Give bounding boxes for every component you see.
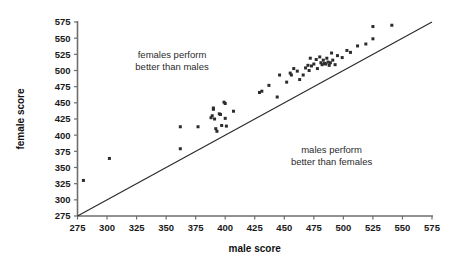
annotation-females-perform-better: females performbetter than males	[135, 49, 209, 72]
data-point	[214, 127, 217, 130]
data-point	[325, 57, 328, 60]
data-point	[356, 44, 359, 47]
data-point	[345, 49, 348, 52]
data-point	[296, 70, 299, 73]
data-point	[364, 42, 367, 45]
y-tick-label: 400	[55, 130, 71, 141]
annotation-line: females perform	[138, 49, 207, 60]
data-point	[316, 67, 319, 70]
data-point	[330, 52, 333, 55]
annotation-line: better than females	[291, 156, 373, 167]
data-point	[232, 110, 235, 113]
y-tick-label: 375	[55, 146, 72, 157]
x-tick-label: 475	[306, 222, 323, 233]
x-tick-label: 500	[335, 222, 351, 233]
x-tick-label: 525	[365, 222, 382, 233]
y-tick-label: 500	[55, 65, 71, 76]
y-tick-label: 300	[55, 194, 71, 205]
data-point	[328, 64, 331, 67]
data-point	[304, 66, 307, 69]
data-point	[308, 69, 311, 72]
data-point	[276, 96, 279, 99]
data-point	[213, 118, 216, 121]
annotation-line: better than males	[135, 61, 209, 72]
plot-canvas: 2753003253503754004254504755005255505752…	[0, 0, 455, 268]
data-point	[298, 78, 301, 81]
data-point	[290, 74, 293, 77]
data-point	[336, 54, 339, 57]
data-point	[212, 107, 215, 110]
data-point	[315, 58, 318, 61]
data-point	[211, 114, 214, 117]
y-tick-label: 550	[55, 33, 71, 44]
identity-reference-line	[78, 22, 433, 216]
data-point	[220, 124, 223, 127]
data-point	[179, 125, 182, 128]
data-point	[278, 74, 281, 77]
data-point	[349, 51, 352, 54]
x-tick-label: 450	[276, 222, 292, 233]
data-point	[371, 25, 374, 28]
y-tick-label: 325	[55, 178, 72, 189]
data-point	[197, 125, 200, 128]
annotation-line: males perform	[301, 144, 362, 155]
y-axis-title: female score	[15, 88, 26, 150]
data-point	[108, 157, 111, 160]
data-point	[82, 179, 85, 182]
data-point	[334, 63, 337, 66]
y-tick-label: 575	[55, 16, 72, 27]
data-point	[260, 90, 263, 93]
x-tick-label: 425	[247, 222, 264, 233]
data-point	[371, 37, 374, 40]
x-tick-label: 550	[395, 222, 411, 233]
data-point	[322, 59, 325, 62]
y-tick-label: 525	[55, 49, 72, 60]
data-point	[292, 67, 295, 70]
x-tick-label: 275	[70, 222, 87, 233]
x-tick-label: 350	[158, 222, 174, 233]
data-point	[390, 24, 393, 27]
x-tick-label: 375	[188, 222, 205, 233]
data-point	[329, 61, 332, 64]
x-tick-label: 400	[217, 222, 233, 233]
x-tick-label: 575	[424, 222, 441, 233]
data-point	[224, 102, 227, 105]
data-point	[267, 84, 270, 87]
data-point	[302, 74, 305, 77]
data-point	[225, 125, 228, 128]
data-point	[285, 81, 288, 84]
x-axis-title: male score	[229, 243, 282, 254]
data-point	[219, 113, 222, 116]
data-point	[331, 59, 334, 62]
x-tick-label: 325	[129, 222, 146, 233]
y-tick-label: 450	[55, 97, 71, 108]
x-tick-label: 300	[99, 222, 115, 233]
y-tick-label: 350	[55, 162, 71, 173]
data-point	[215, 130, 218, 133]
y-tick-label: 475	[55, 81, 72, 92]
data-point	[309, 57, 312, 60]
data-point	[318, 55, 321, 58]
data-point	[179, 147, 182, 150]
data-point	[341, 56, 344, 59]
scatter-plot-figure: 2753003253503754004254504755005255505752…	[0, 0, 455, 268]
data-point	[306, 64, 309, 67]
data-point	[312, 63, 315, 66]
y-tick-label: 275	[55, 210, 72, 221]
data-point	[224, 117, 227, 120]
y-tick-label: 425	[55, 113, 72, 124]
annotation-males-perform-better: males performbetter than females	[291, 144, 373, 167]
